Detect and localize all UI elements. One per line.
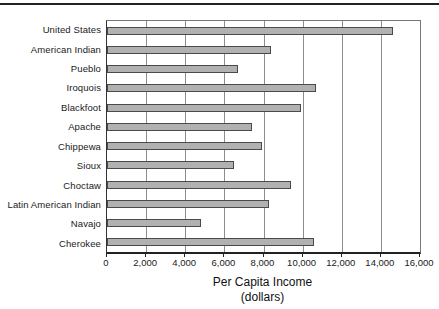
plot-area xyxy=(106,20,421,254)
bar-pueblo xyxy=(107,65,238,73)
bar-row xyxy=(107,137,420,156)
x-tick-label: 10,000 xyxy=(287,257,316,268)
x-axis-title-units: (dollars) xyxy=(106,290,419,305)
category-label-sioux: Sioux xyxy=(0,156,101,175)
bar-iroquois xyxy=(107,84,316,92)
bar-row xyxy=(107,156,420,175)
category-label-blackfoot: Blackfoot xyxy=(0,98,101,117)
bar-row xyxy=(107,98,420,117)
bar-apache xyxy=(107,123,252,131)
x-tick-label: 0 xyxy=(103,257,108,268)
x-tick-label: 12,000 xyxy=(326,257,355,268)
x-tick-label: 2,000 xyxy=(133,257,157,268)
x-tick-label: 6,000 xyxy=(211,257,235,268)
bar-row xyxy=(107,175,420,194)
category-axis: United StatesAmerican IndianPuebloIroquo… xyxy=(0,20,101,253)
bar-row xyxy=(107,233,420,252)
category-label-american-indian: American Indian xyxy=(0,39,101,58)
bar-choctaw xyxy=(107,181,291,189)
bar-latin-american-indian xyxy=(107,200,269,208)
category-label-iroquois: Iroquois xyxy=(0,78,101,97)
bar-american-indian xyxy=(107,46,271,54)
bar-row xyxy=(107,21,420,40)
category-label-latin-american-indian: Latin American Indian xyxy=(0,195,101,214)
bar-rows xyxy=(107,21,420,252)
bar-row xyxy=(107,60,420,79)
category-label-cherokee: Cherokee xyxy=(0,234,101,253)
bar-cherokee xyxy=(107,238,314,246)
figure: United StatesAmerican IndianPuebloIroquo… xyxy=(0,0,439,309)
x-tick-label: 14,000 xyxy=(365,257,394,268)
category-label-apache: Apache xyxy=(0,117,101,136)
bar-navajo xyxy=(107,219,201,227)
category-label-pueblo: Pueblo xyxy=(0,59,101,78)
bar-row xyxy=(107,117,420,136)
x-tick-label: 4,000 xyxy=(172,257,196,268)
category-label-chippewa: Chippewa xyxy=(0,137,101,156)
bar-united-states xyxy=(107,27,393,35)
bar-row xyxy=(107,40,420,59)
category-label-united-states: United States xyxy=(0,20,101,39)
x-axis-title-text: Per Capita Income xyxy=(106,275,419,290)
x-tick-label: 16,000 xyxy=(404,257,433,268)
bar-row xyxy=(107,214,420,233)
bar-row xyxy=(107,194,420,213)
bar-sioux xyxy=(107,161,234,169)
x-axis-title: Per Capita Income (dollars) xyxy=(106,275,419,305)
bar-chippewa xyxy=(107,142,262,150)
category-label-navajo: Navajo xyxy=(0,214,101,233)
x-tick-label: 8,000 xyxy=(251,257,275,268)
bar-blackfoot xyxy=(107,104,301,112)
bar-row xyxy=(107,79,420,98)
top-rule-divider xyxy=(0,3,439,5)
category-label-choctaw: Choctaw xyxy=(0,175,101,194)
